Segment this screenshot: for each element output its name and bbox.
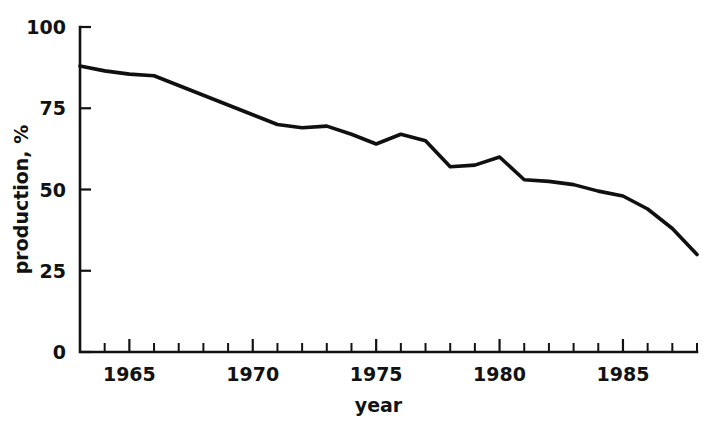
y-axis-title: production, % — [10, 125, 32, 274]
production-line-chart: 025507510019651970197519801985 yearprodu… — [0, 0, 713, 431]
chart-figure: 025507510019651970197519801985 yearprodu… — [0, 0, 713, 431]
chart-series — [80, 66, 697, 255]
series-line-production — [80, 66, 697, 255]
chart-axes — [80, 27, 697, 352]
x-axis-title: year — [355, 394, 403, 416]
x-tick-label-1980: 1980 — [473, 363, 526, 385]
y-tick-label-50: 50 — [40, 179, 66, 201]
chart-axis-titles: yearproduction, % — [10, 125, 403, 416]
x-tick-label-1965: 1965 — [103, 363, 156, 385]
x-tick-label-1975: 1975 — [350, 363, 403, 385]
chart-ticks — [80, 27, 697, 352]
y-tick-label-75: 75 — [40, 97, 66, 119]
y-tick-label-100: 100 — [26, 16, 66, 38]
axis-spine — [80, 27, 697, 352]
y-tick-label-25: 25 — [40, 260, 66, 282]
y-tick-label-0: 0 — [53, 341, 66, 363]
x-tick-label-1970: 1970 — [226, 363, 279, 385]
x-tick-label-1985: 1985 — [597, 363, 650, 385]
